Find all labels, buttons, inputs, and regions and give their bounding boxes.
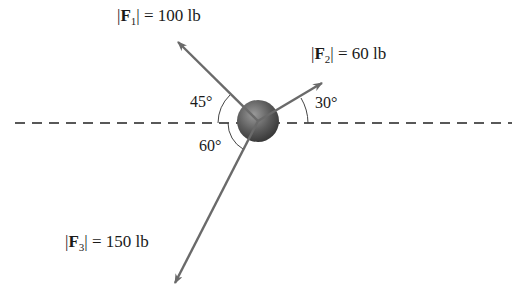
angle-label-f2: 30° <box>315 94 337 112</box>
force-label-f3: |F3| = 150 lb <box>65 232 149 253</box>
angle-label-f1: 45° <box>190 93 212 111</box>
angle-arc-f1 <box>218 95 230 123</box>
angle-arc-f2 <box>301 98 308 123</box>
force-arrow-f2 <box>258 83 322 121</box>
force-label-f1: |F1| = 100 lb <box>117 6 201 27</box>
angle-label-f3: 60° <box>199 137 221 155</box>
force-label-f2: |F2| = 60 lb <box>311 44 386 65</box>
